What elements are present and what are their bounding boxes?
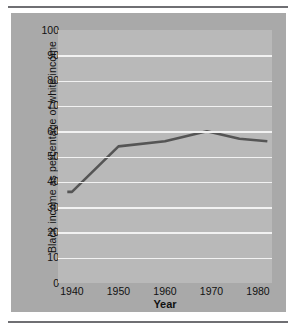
y-tick-label: 70 xyxy=(33,100,59,111)
gridline xyxy=(58,106,272,108)
gridline xyxy=(58,131,272,133)
bottom-divider-rule xyxy=(8,321,288,323)
gridline xyxy=(58,207,272,209)
y-axis-tick-labels: 0102030405060708090100 xyxy=(33,30,59,283)
y-tick-label: 40 xyxy=(33,176,59,187)
x-tick-label: 1950 xyxy=(98,285,138,297)
x-tick-label: 1970 xyxy=(192,285,232,297)
y-tick-label: 30 xyxy=(33,202,59,213)
y-tick-label: 50 xyxy=(33,151,59,162)
y-tick-label: 90 xyxy=(33,50,59,61)
x-tick-label: 1980 xyxy=(238,285,278,297)
x-axis-title: Year xyxy=(58,298,272,310)
x-tick-label: 1960 xyxy=(145,285,185,297)
top-divider-rule xyxy=(8,6,288,8)
gridline xyxy=(58,55,272,57)
y-tick-label: 20 xyxy=(33,227,59,238)
gridline xyxy=(58,182,272,184)
y-tick-label: 60 xyxy=(33,126,59,137)
x-tick-label: 1940 xyxy=(52,285,92,297)
gridline xyxy=(58,232,272,234)
figure: Black income as percentage of white inco… xyxy=(0,0,296,332)
x-axis-tick-labels: 19401950196019701980 xyxy=(58,285,272,299)
y-tick-label: 100 xyxy=(33,25,59,36)
gridline xyxy=(58,81,272,83)
chart-panel: Black income as percentage of white inco… xyxy=(11,13,286,312)
y-tick-label: 80 xyxy=(33,75,59,86)
plot-area xyxy=(58,30,272,283)
y-tick-label: 10 xyxy=(33,252,59,263)
gridline xyxy=(58,258,272,260)
gridline xyxy=(58,157,272,159)
